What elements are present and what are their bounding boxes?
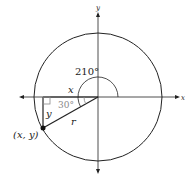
x-axis-arrow-left	[19, 95, 24, 99]
point-marker	[41, 126, 46, 131]
right-angle-marker	[43, 97, 50, 104]
y-axis-label: y	[95, 4, 101, 12]
reference-angle-label: 30°	[58, 100, 74, 110]
adjacent-label: x	[68, 84, 74, 95]
y-axis-arrow-down	[96, 169, 100, 174]
hypotenuse-label: r	[71, 116, 77, 127]
x-axis-label: x	[181, 94, 185, 102]
angle-label-210: 210°	[75, 66, 99, 77]
y-axis-arrow-up	[96, 12, 100, 17]
opposite-label: y	[45, 108, 52, 119]
unit-circle-diagram: x y 210° 30° x y r (x, y)	[0, 0, 196, 181]
point-label: (x, y)	[13, 129, 39, 140]
x-axis-arrow-right	[175, 95, 180, 99]
reference-angle-arc	[84, 97, 86, 104]
